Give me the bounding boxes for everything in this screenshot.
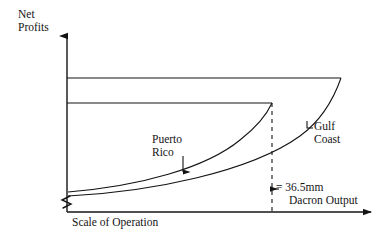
gulf-coast-annotation-label: Gulf Coast (314, 120, 340, 146)
gulf-coast-curve (68, 78, 341, 196)
chart-figure: Net Profits Scale of Operation Puerto Ri… (0, 0, 392, 245)
puerto-rico-annotation-label: Puerto Rico (152, 133, 182, 159)
axis-break-zigzag (62, 196, 71, 208)
dacron-output-annotation-label: = 36.5mmDacron Output (276, 181, 358, 207)
gulf-coast-leader-line (307, 121, 313, 128)
x-axis-label: Scale of Operation (72, 216, 158, 229)
y-axis-label: Net Profits (18, 8, 49, 34)
dacron-output-value: = 36.5mm (276, 181, 323, 193)
dacron-output-caption: Dacron Output (276, 194, 358, 207)
